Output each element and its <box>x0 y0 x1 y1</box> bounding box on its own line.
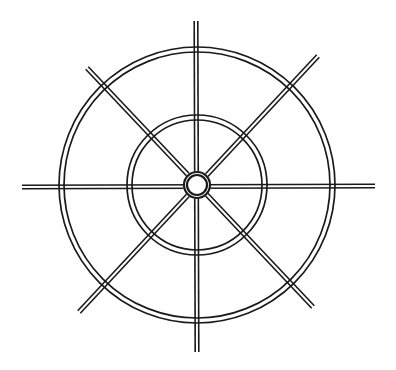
wheel-diagram <box>0 0 396 370</box>
